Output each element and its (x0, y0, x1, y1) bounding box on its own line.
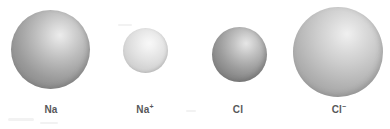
label-text: Na (44, 104, 57, 115)
sphere-chloride-ion (293, 7, 383, 97)
atom-group-sodium-atom: Na (0, 0, 102, 129)
label-chlorine-atom: Cl (188, 104, 288, 116)
label-sodium-ion: Na+ (102, 104, 188, 116)
sphere-sodium-ion (123, 28, 168, 73)
label-text: Cl (332, 104, 342, 115)
label-sodium-atom: Na (0, 104, 102, 116)
sphere-sodium-atom (11, 10, 90, 89)
atom-group-sodium-ion: Na+ (102, 0, 188, 129)
atom-group-chlorine-atom: Cl (188, 0, 288, 129)
atomic-radii-figure: Na Na+ Cl Cl− (0, 0, 390, 129)
label-charge: + (149, 103, 153, 110)
label-text: Na (136, 104, 149, 115)
label-charge: − (342, 103, 346, 110)
label-text: Cl (233, 104, 243, 115)
atom-group-chloride-ion: Cl− (288, 0, 390, 129)
label-chloride-ion: Cl− (288, 104, 390, 116)
sphere-chlorine-atom (212, 27, 267, 82)
